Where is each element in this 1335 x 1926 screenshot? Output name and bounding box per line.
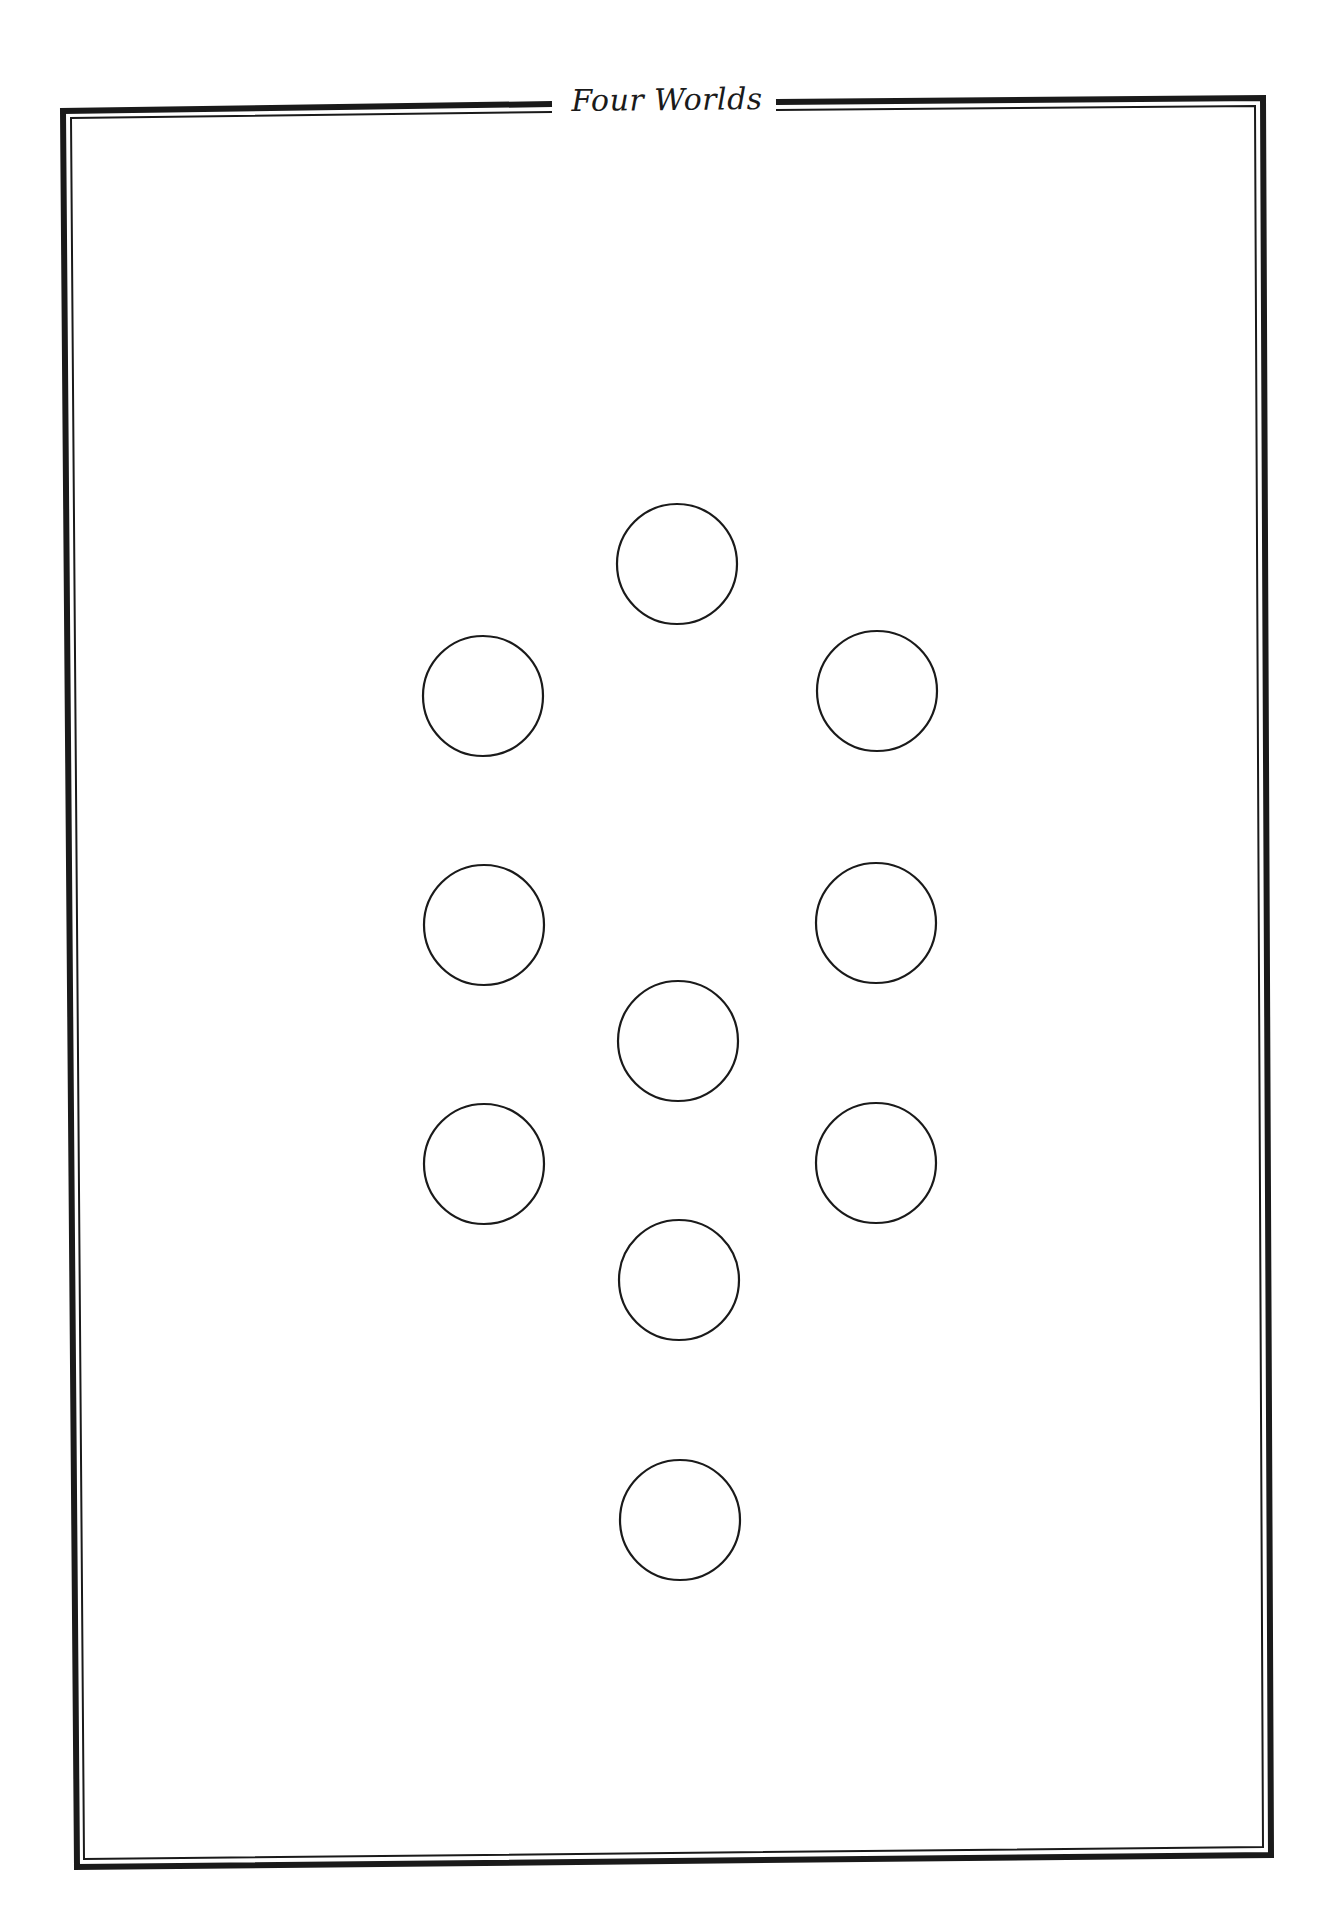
circle-c2: [423, 636, 543, 756]
page-canvas: [0, 0, 1335, 1926]
circle-c4: [424, 865, 544, 985]
circle-c6: [618, 981, 738, 1101]
circle-c9: [619, 1220, 739, 1340]
circle-c8: [816, 1103, 936, 1223]
circle-c3: [817, 631, 937, 751]
circle-c5: [816, 863, 936, 983]
circle-c1: [617, 504, 737, 624]
circle-group: [423, 504, 937, 1580]
page-title: Four Worlds: [560, 81, 774, 118]
circle-c7: [424, 1104, 544, 1224]
circle-c10: [620, 1460, 740, 1580]
